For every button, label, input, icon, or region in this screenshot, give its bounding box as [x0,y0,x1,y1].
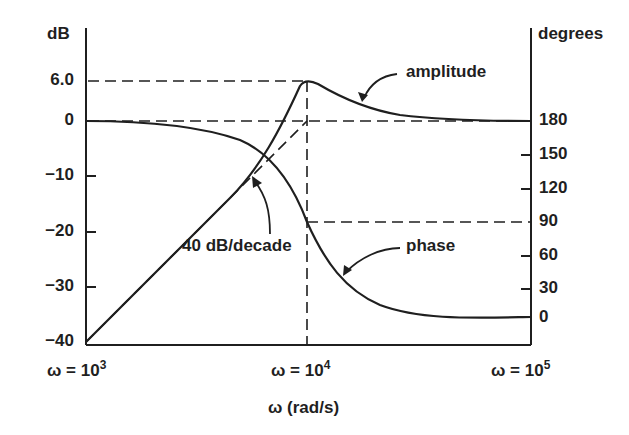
y-right-tick: 60 [539,245,558,265]
slope-arrow [254,180,270,234]
phase-curve [86,121,531,318]
y-left-tick: −20 [45,221,74,241]
phase-arrow [346,248,400,272]
x-tick-base: ω = 10 [271,361,324,380]
y-left-tick: 6.0 [50,70,74,90]
y-left-tick: −30 [45,276,74,296]
x-tick-1e4: ω = 104 [271,358,330,381]
phase-annotation: phase [406,236,455,256]
y-right-tick: 120 [539,178,567,198]
x-tick-1e3: ω = 103 [47,358,106,381]
y-right-tick: 30 [539,278,558,298]
y-right-tick: 90 [539,211,558,231]
y-right-title: degrees [538,24,603,44]
amplitude-arrow [364,74,397,98]
x-tick-1e5: ω = 105 [491,358,550,381]
x-axis-title: ω (rad/s) [268,398,339,418]
amplitude-curve [86,81,531,342]
x-tick-base: ω = 10 [47,361,100,380]
y-left-tick: −10 [45,165,74,185]
x-tick-base: ω = 10 [491,361,544,380]
x-tick-exp: 4 [324,358,331,372]
amplitude-annotation: amplitude [406,62,486,82]
y-right-tick: 180 [539,110,567,130]
y-right-tick: 150 [539,144,567,164]
x-tick-exp: 5 [544,358,551,372]
slope-annotation: 40 dB/decade [182,236,292,256]
y-left-title: dB [47,24,70,44]
y-right-tick: 0 [539,307,548,327]
left-ticks [86,176,96,287]
y-left-tick: 0 [65,110,74,130]
x-tick-exp: 3 [100,358,107,372]
y-left-tick: −40 [45,331,74,351]
